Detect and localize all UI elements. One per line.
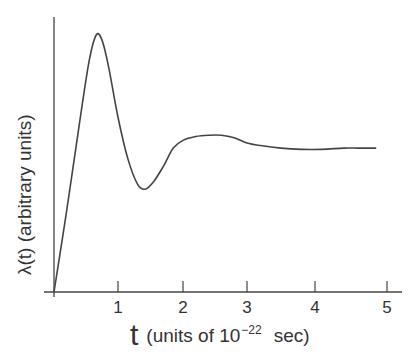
x-axis-symbol: t [130,318,138,351]
x-axis-units-prefix: (units of 10 [146,325,240,346]
x-tick-label: 4 [310,298,319,318]
x-axis-units-exponent: −22 [241,323,261,337]
line-chart [0,0,417,359]
lambda-curve [54,34,376,292]
x-tick-label: 3 [242,298,251,318]
x-tick-label: 1 [113,298,122,318]
x-tick-label: 5 [382,298,391,318]
y-axis-label: λ(t) (arbitrary units) [14,115,36,275]
x-axis-label: t(units of 10−22sec) [130,318,310,352]
x-ticks [118,281,387,292]
x-axis-units-suffix: sec) [274,325,310,346]
x-tick-label: 2 [178,298,187,318]
